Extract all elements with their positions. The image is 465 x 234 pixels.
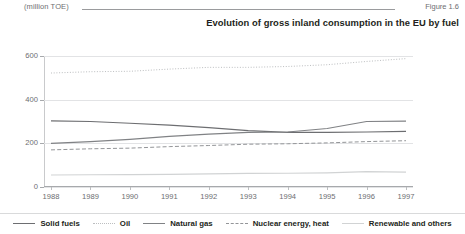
x-axis-label-1997: 1997	[384, 192, 428, 201]
figure-number-label: Figure 1.6	[425, 2, 459, 11]
legend-item-oil[interactable]: Oil	[93, 219, 130, 228]
x-tick-1996	[367, 187, 368, 190]
legend-item-renewable-and-others[interactable]: Renewable and others	[342, 219, 452, 228]
x-tick-1990	[130, 187, 131, 190]
y-axis-label-200: 200	[0, 139, 38, 147]
y-axis-label-0: 0	[0, 183, 38, 191]
legend-label-renewable-and-others: Renewable and others	[369, 219, 452, 228]
x-axis-label-1991: 1991	[147, 192, 191, 201]
legend-swatch-nuclear-energy-heat-icon	[226, 220, 248, 227]
x-tick-1988	[51, 187, 52, 190]
legend-item-natural-gas[interactable]: Natural gas	[143, 219, 212, 228]
legend-label-solid-fuels: Solid fuels	[40, 219, 79, 228]
x-axis-labels: 1988198919901991199219931994199519961997	[44, 187, 413, 203]
x-axis-label-1990: 1990	[108, 192, 152, 201]
legend-swatch-oil-icon	[93, 220, 115, 227]
x-axis-label-1994: 1994	[266, 192, 310, 201]
series-line-renewable-and-others	[51, 172, 406, 175]
x-tick-1995	[327, 187, 328, 190]
x-axis-label-1992: 1992	[187, 192, 231, 201]
unit-label: (million TOE)	[24, 2, 69, 11]
x-tick-1989	[90, 187, 91, 190]
series-line-nuclear-energy-heat	[51, 141, 406, 150]
x-tick-1992	[209, 187, 210, 190]
legend-swatch-natural-gas-icon	[143, 220, 165, 227]
series-line-solid-fuels	[51, 121, 406, 133]
x-axis-label-1989: 1989	[68, 192, 112, 201]
legend-swatch-renewable-and-others-icon	[342, 220, 364, 227]
x-tick-1997	[406, 187, 407, 190]
series-lines	[44, 56, 413, 187]
legend-item-nuclear-energy-heat[interactable]: Nuclear energy, heat	[226, 219, 329, 228]
legend-label-oil: Oil	[120, 219, 130, 228]
series-line-oil	[51, 59, 406, 73]
figure-page: (million TOE) Figure 1.6 Evolution of gr…	[0, 0, 465, 234]
x-tick-1994	[288, 187, 289, 190]
x-axis-label-1995: 1995	[305, 192, 349, 201]
legend-label-nuclear-energy-heat: Nuclear energy, heat	[253, 219, 329, 228]
legend-label-natural-gas: Natural gas	[170, 219, 212, 228]
y-axis-label-600: 600	[0, 52, 38, 60]
chart-plot-area: 0200400600	[44, 56, 413, 187]
legend-swatch-solid-fuels-icon	[13, 220, 35, 227]
header-rule	[82, 9, 395, 10]
chart-title: Evolution of gross inland consumption in…	[0, 17, 459, 28]
chart-legend: Solid fuelsOilNatural gasNuclear energy,…	[0, 213, 465, 234]
x-tick-1991	[169, 187, 170, 190]
x-axis-label-1993: 1993	[226, 192, 270, 201]
legend-item-solid-fuels[interactable]: Solid fuels	[13, 219, 79, 228]
y-axis-label-400: 400	[0, 96, 38, 104]
x-tick-1993	[248, 187, 249, 190]
x-axis-label-1996: 1996	[345, 192, 389, 201]
figure-header: (million TOE) Figure 1.6	[0, 0, 465, 16]
x-axis-label-1988: 1988	[29, 192, 73, 201]
